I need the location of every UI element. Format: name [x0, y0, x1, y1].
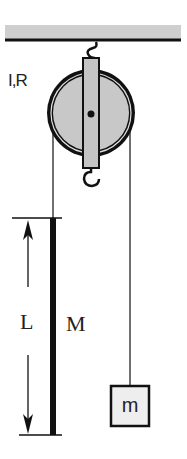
top-hook	[88, 42, 97, 58]
pulley-label: I,R	[8, 72, 27, 89]
bottom-hook	[84, 168, 99, 186]
rod	[50, 218, 56, 435]
rod-mass-label: M	[66, 313, 86, 335]
pulley-diagram	[0, 0, 187, 459]
hanging-mass-label: m	[110, 395, 150, 415]
ceiling	[5, 25, 181, 39]
pulley-axle	[88, 111, 95, 118]
rod-length-label: L	[20, 311, 33, 333]
